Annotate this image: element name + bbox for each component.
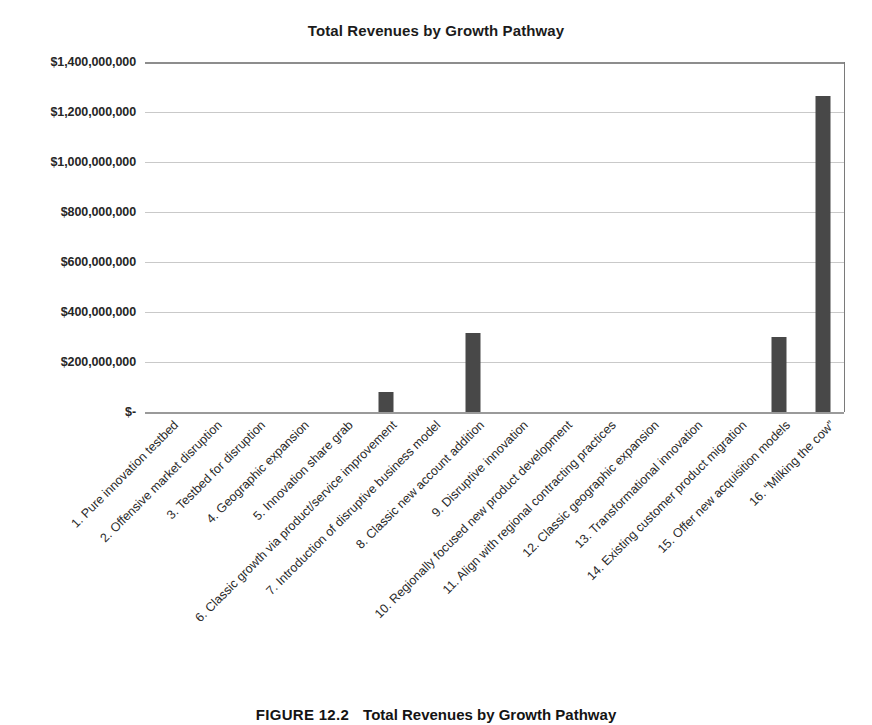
bar-slot (539, 62, 583, 412)
bar-slot (451, 62, 495, 412)
bar-slot (408, 62, 452, 412)
y-axis-tick-label: $600,000,000 (61, 255, 136, 269)
y-axis-tick-label: $400,000,000 (61, 305, 136, 319)
chart-title: Total Revenues by Growth Pathway (0, 22, 872, 39)
bar[interactable] (466, 333, 481, 412)
bar-slot (626, 62, 670, 412)
figure-caption: FIGURE 12.2Total Revenues by Growth Path… (0, 706, 872, 723)
bar-slot (583, 62, 627, 412)
bar[interactable] (772, 337, 787, 412)
bar-slot (801, 62, 845, 412)
figure-container: Total Revenues by Growth Pathway $1,400,… (0, 0, 872, 725)
bar[interactable] (816, 96, 831, 412)
bar-slot (364, 62, 408, 412)
bar-slot (495, 62, 539, 412)
x-axis-tick-label: 14. Existing customer product migration (584, 418, 749, 583)
bar-series (145, 62, 844, 412)
bar-slot (758, 62, 802, 412)
bar-slot (189, 62, 233, 412)
x-axis-tick-label: 16. “Milking the cow” (746, 418, 837, 509)
y-axis-tick-label: $800,000,000 (61, 205, 136, 219)
y-axis-tick-label: $- (125, 405, 136, 419)
y-axis-tick-label: $1,000,000,000 (51, 155, 137, 169)
bar-slot (145, 62, 189, 412)
bar-slot (276, 62, 320, 412)
bar-slot (670, 62, 714, 412)
bar[interactable] (378, 392, 393, 412)
caption-label: FIGURE 12.2 (256, 706, 349, 723)
bar-slot (714, 62, 758, 412)
y-axis-tick-label: $1,400,000,000 (51, 55, 137, 69)
x-axis-ticks: 1. Pure innovation testbed2. Offensive m… (145, 412, 845, 712)
bar-slot (320, 62, 364, 412)
y-axis-tick-label: $200,000,000 (61, 355, 136, 369)
caption-text: Total Revenues by Growth Pathway (363, 706, 616, 723)
bar-slot (233, 62, 277, 412)
x-axis-tick-label: 6. Classic growth via product/service im… (193, 418, 400, 625)
y-axis-tick-label: $1,200,000,000 (51, 105, 137, 119)
plot-area: $1,400,000,000$1,200,000,000$1,000,000,0… (145, 62, 845, 412)
